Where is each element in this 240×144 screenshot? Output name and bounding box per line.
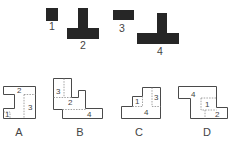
option-b-label: B bbox=[76, 126, 83, 138]
option-c-piece-label: 3 bbox=[154, 93, 159, 102]
piece-2: 2 bbox=[67, 8, 99, 51]
option-a[interactable]: 1 2 3 A bbox=[4, 86, 36, 138]
option-c-piece-label: 1 bbox=[135, 97, 140, 106]
piece-2-label: 2 bbox=[80, 39, 86, 51]
option-a-piece-label: 2 bbox=[17, 86, 22, 95]
option-a-piece-label: 1 bbox=[5, 110, 10, 119]
option-b-piece-label: 3 bbox=[56, 87, 61, 96]
option-d-label: D bbox=[203, 126, 211, 138]
option-d-piece-label: 4 bbox=[191, 90, 196, 99]
option-b-outline bbox=[54, 79, 103, 119]
piece-4: 4 bbox=[137, 13, 179, 57]
option-c-label: C bbox=[135, 126, 143, 138]
piece-3: 3 bbox=[113, 10, 134, 34]
option-b-piece-label: 2 bbox=[68, 98, 73, 107]
piece-4-shape bbox=[137, 13, 179, 44]
option-d[interactable]: 4 1 2 D bbox=[179, 87, 228, 139]
option-d-piece-label: 2 bbox=[215, 110, 220, 119]
option-a-piece-label: 3 bbox=[28, 103, 33, 112]
option-c-piece-label: 4 bbox=[144, 108, 149, 117]
option-b[interactable]: 3 2 4 B bbox=[54, 79, 103, 139]
piece-2-shape bbox=[67, 8, 99, 39]
option-b-piece-label: 4 bbox=[87, 110, 92, 119]
option-a-label: A bbox=[15, 126, 23, 138]
option-d-outline bbox=[179, 87, 228, 119]
piece-1-label: 1 bbox=[49, 20, 55, 32]
piece-1: 1 bbox=[46, 8, 58, 32]
piece-4-label: 4 bbox=[157, 45, 163, 57]
puzzle-diagram: 1 2 3 4 1 2 3 A 3 2 4 B 1 4 3 C bbox=[0, 0, 240, 144]
piece-3-label: 3 bbox=[119, 22, 125, 34]
piece-3-shape bbox=[113, 10, 134, 20]
option-d-piece-label: 1 bbox=[205, 100, 210, 109]
option-c[interactable]: 1 4 3 C bbox=[122, 88, 161, 139]
